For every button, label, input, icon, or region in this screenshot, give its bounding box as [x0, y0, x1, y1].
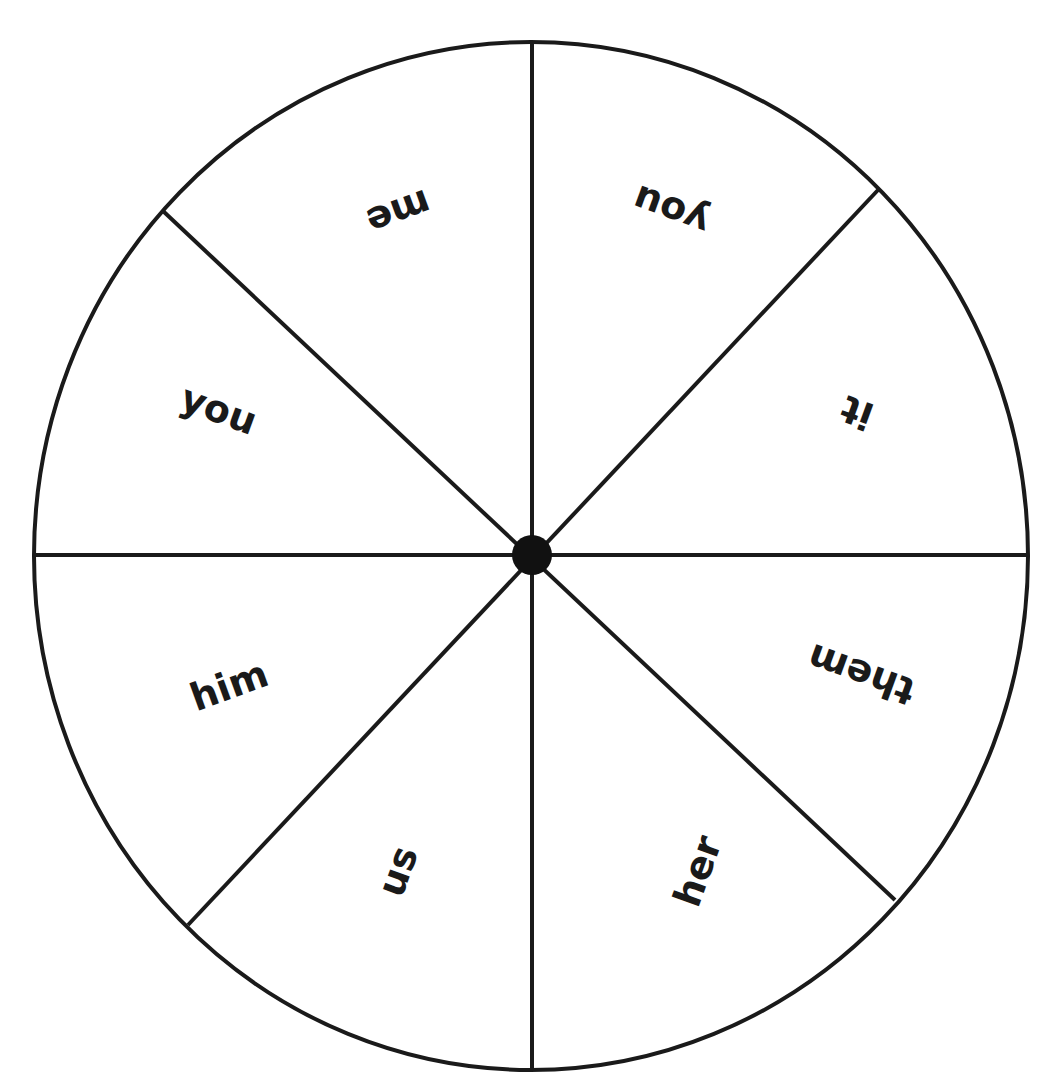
pronoun-spinner-wheel: me you it them her us him you — [0, 0, 1049, 1092]
center-hub[interactable] — [512, 535, 552, 575]
